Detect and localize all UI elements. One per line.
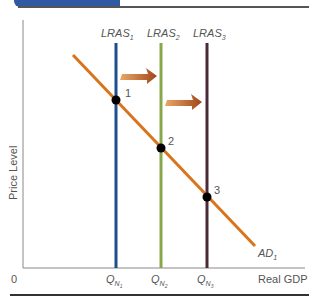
bottom-rule — [10, 294, 309, 296]
shift-arrow-2 — [165, 94, 202, 110]
origin-label: 0 — [11, 273, 17, 285]
lras1-label: LRAS1 — [101, 27, 134, 41]
ad1-label: AD1 — [257, 247, 277, 261]
qn3-label: QN3 — [197, 273, 214, 289]
lras2-label: LRAS2 — [147, 27, 180, 41]
point-2-label: 2 — [168, 135, 174, 147]
point-1-label: 1 — [125, 87, 131, 99]
lras3-label: LRAS3 — [193, 27, 226, 41]
chart-canvas: 1 2 3 LRAS1 LRAS2 LRAS3 AD1 Price Level … — [0, 0, 309, 306]
x-axis-label: Real GDP — [258, 273, 308, 285]
point-1 — [112, 96, 121, 105]
shift-arrow-1 — [120, 68, 157, 84]
qn1-label: QN1 — [106, 273, 123, 289]
qn2-label: QN2 — [151, 273, 168, 289]
y-axis-label: Price Level — [7, 146, 19, 200]
point-3-label: 3 — [214, 184, 220, 196]
point-3 — [203, 193, 212, 202]
point-2 — [157, 144, 166, 153]
